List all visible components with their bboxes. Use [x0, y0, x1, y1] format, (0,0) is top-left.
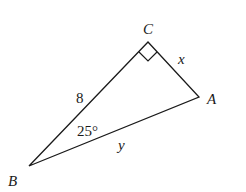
right-angle-marker	[139, 52, 157, 61]
side-label-ba: y	[116, 137, 125, 153]
side-label-ca: x	[177, 51, 185, 67]
vertex-label-a: A	[206, 91, 217, 107]
vertex-label-b: B	[8, 173, 17, 189]
angle-label-b: 25°	[77, 123, 98, 139]
side-label-bc: 8	[76, 90, 84, 106]
vertex-label-c: C	[143, 21, 154, 37]
triangle-diagram: C A B 8 x y 25°	[0, 0, 246, 192]
triangle-abc	[29, 42, 199, 166]
